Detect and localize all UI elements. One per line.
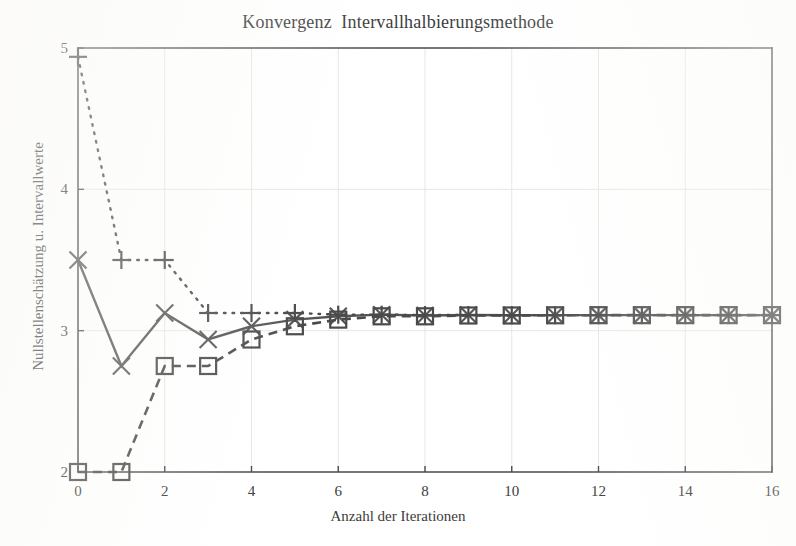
x-tick-label: 4 [248, 483, 256, 499]
y-tick-label: 4 [61, 181, 69, 197]
marker-square [547, 307, 563, 323]
marker-square [157, 358, 173, 374]
x-tick-label: 6 [335, 483, 343, 499]
marker-square [417, 308, 433, 324]
x-tick-label: 8 [421, 483, 429, 499]
chart-figure: Konvergenz Intervallhalbierungsmethode N… [0, 0, 796, 546]
x-tick-label: 12 [591, 483, 606, 499]
x-tick-label: 14 [678, 483, 694, 499]
x-tick-label: 16 [765, 483, 781, 499]
marker-square [70, 464, 86, 480]
marker-square [200, 358, 216, 374]
marker-square [113, 464, 129, 480]
x-tick-labels: 0246810121416 [74, 483, 780, 499]
marker-square [330, 312, 346, 328]
marker-square [460, 307, 476, 323]
marker-square [764, 307, 780, 323]
marker-square [374, 308, 390, 324]
x-tick-label: 0 [74, 483, 82, 499]
marker-square [244, 332, 260, 348]
plot-area: 0246810121416 2345 [0, 0, 796, 546]
marker-square [634, 307, 650, 323]
gridlines [78, 48, 772, 472]
marker-square [721, 307, 737, 323]
y-tick-label: 3 [61, 323, 69, 339]
y-tick-labels: 2345 [61, 40, 69, 480]
marker-square [591, 307, 607, 323]
y-tick-label: 5 [61, 40, 69, 56]
x-tick-label: 2 [161, 483, 169, 499]
x-tick-label: 10 [504, 483, 519, 499]
y-tick-label: 2 [61, 464, 69, 480]
marker-square [287, 318, 303, 334]
marker-square [504, 307, 520, 323]
marker-square [677, 307, 693, 323]
